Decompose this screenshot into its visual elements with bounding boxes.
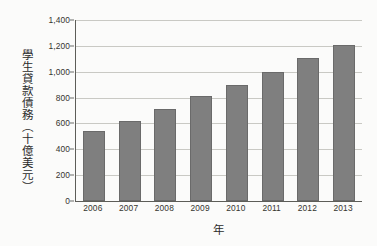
y-axis-tick-labels: 02004006008001,0001,2001,400 xyxy=(30,0,74,246)
y-tick-label: 200 xyxy=(56,170,70,180)
y-tick-mark xyxy=(70,175,74,176)
bar-slot xyxy=(183,20,219,201)
bar[interactable] xyxy=(154,109,176,201)
bar[interactable] xyxy=(297,58,319,202)
y-tick-mark xyxy=(70,123,74,124)
y-tick-mark xyxy=(70,97,74,98)
bar-slot xyxy=(148,20,184,201)
y-tick-mark xyxy=(70,45,74,46)
y-tick-mark xyxy=(70,71,74,72)
y-tick-label: 800 xyxy=(56,93,70,103)
x-tick-label: 2009 xyxy=(182,203,218,219)
bar-slot xyxy=(326,20,362,201)
x-tick-label: 2012 xyxy=(290,203,326,219)
x-axis-tick-labels: 20062007200820092010201120122013 xyxy=(75,203,361,219)
x-tick-label: 2011 xyxy=(254,203,290,219)
y-tick-label: 1,000 xyxy=(49,67,70,77)
y-tick-mark xyxy=(70,20,74,21)
bar[interactable] xyxy=(333,45,355,201)
bar-series xyxy=(76,20,362,201)
y-tick-mark xyxy=(70,149,74,150)
plot-area xyxy=(75,20,362,202)
bar[interactable] xyxy=(83,131,105,201)
x-tick-label: 2007 xyxy=(111,203,147,219)
bar-slot xyxy=(76,20,112,201)
x-tick-label: 2013 xyxy=(325,203,361,219)
bar-slot xyxy=(255,20,291,201)
chart-figure: 學生貸款債務（十億美元） 02004006008001,0001,2001,40… xyxy=(0,0,377,246)
x-tick-label: 2010 xyxy=(218,203,254,219)
bar[interactable] xyxy=(190,96,212,201)
x-tick-label: 2008 xyxy=(147,203,183,219)
y-tick-label: 600 xyxy=(56,118,70,128)
y-tick-mark xyxy=(70,201,74,202)
x-axis-title: 年 xyxy=(75,221,361,237)
bar-slot xyxy=(291,20,327,201)
bar[interactable] xyxy=(262,72,284,201)
y-tick-label: 400 xyxy=(56,144,70,154)
bar[interactable] xyxy=(226,85,248,201)
x-tick-label: 2006 xyxy=(75,203,111,219)
bar-slot xyxy=(112,20,148,201)
bar-slot xyxy=(219,20,255,201)
y-tick-label: 1,400 xyxy=(49,15,70,25)
bar[interactable] xyxy=(119,121,141,201)
y-tick-label: 1,200 xyxy=(49,41,70,51)
